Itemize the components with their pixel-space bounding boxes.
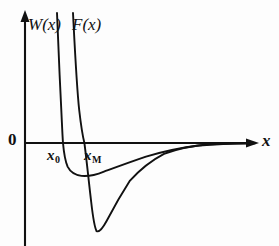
x-min-subscript: M (92, 154, 101, 165)
origin-label: 0 (8, 131, 17, 148)
potential-curve-label: W(x) (28, 16, 61, 33)
x-zero-tick-label: x0 (47, 148, 60, 163)
plot-canvas (0, 0, 279, 246)
figure-container: W(x) F(x) 0 x0 xM x (0, 0, 279, 246)
curve-force-f (73, 13, 255, 231)
force-curve-label: F(x) (72, 16, 101, 33)
x-zero-base: x (47, 147, 55, 163)
x-min-tick-label: xM (84, 148, 101, 163)
x-min-base: x (84, 147, 92, 163)
x-zero-subscript: 0 (55, 154, 60, 165)
x-axis-label: x (262, 132, 271, 149)
